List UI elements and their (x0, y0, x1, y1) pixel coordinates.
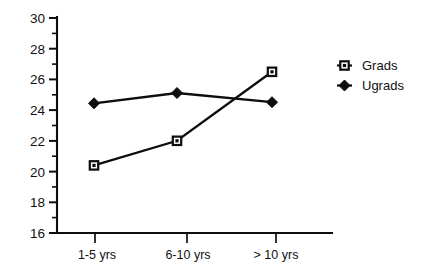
data-point-grads-2 (173, 137, 181, 145)
axes (56, 17, 332, 233)
data-point-grads-1 (90, 161, 98, 169)
data-point-ugrads-3 (267, 97, 278, 108)
y-tick-label: 28 (30, 42, 45, 57)
y-tick-label: 26 (30, 72, 45, 87)
data-point-grads-3 (268, 68, 276, 76)
y-axis-tick-labels: 30 28 26 24 22 20 18 16 (30, 11, 46, 241)
y-tick-label: 18 (30, 195, 45, 210)
x-tick-label: > 10 yrs (254, 248, 299, 262)
y-tick-label: 22 (30, 134, 45, 149)
x-axis-ticks (95, 233, 276, 243)
legend-item-ugrads[interactable]: Ugrads (337, 78, 404, 93)
filled-diamond-marker-icon (339, 80, 350, 91)
y-tick-label: 20 (30, 165, 45, 180)
series-grads (90, 68, 276, 170)
series-ugrads (89, 88, 278, 109)
x-tick-label: 6-10 yrs (165, 248, 210, 262)
x-tick-label: 1-5 yrs (78, 248, 116, 262)
legend-item-grads[interactable]: Grads (337, 58, 398, 73)
chart-legend: Grads Ugrads (337, 58, 404, 93)
line-chart: 30 28 26 24 22 20 18 16 1-5 yrs 6-10 yrs… (0, 0, 427, 269)
data-point-ugrads-1 (89, 98, 100, 109)
series-grads-line (94, 72, 272, 166)
y-tick-label: 24 (30, 103, 46, 118)
y-tick-label: 30 (30, 11, 45, 26)
series-ugrads-line (94, 93, 272, 103)
chart-canvas: 30 28 26 24 22 20 18 16 1-5 yrs 6-10 yrs… (0, 0, 427, 269)
y-tick-label: 16 (30, 226, 45, 241)
x-axis-tick-labels: 1-5 yrs 6-10 yrs > 10 yrs (78, 248, 299, 262)
legend-label-ugrads: Ugrads (362, 78, 404, 93)
data-point-ugrads-2 (172, 88, 183, 99)
legend-label-grads: Grads (362, 58, 398, 73)
